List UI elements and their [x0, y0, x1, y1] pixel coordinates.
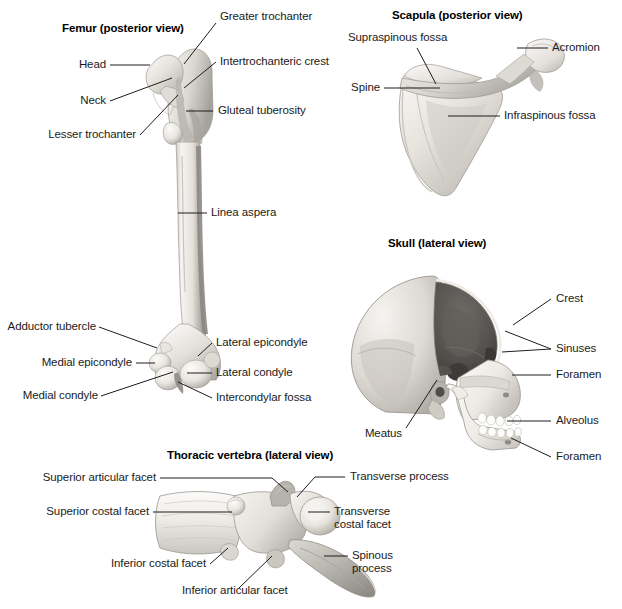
- leader-neck: [110, 78, 172, 101]
- label-inferior-costal-facet: Inferior costal facet: [58, 557, 206, 570]
- label-transverse-costal-facet-line2: costal facet: [334, 518, 391, 531]
- label-linea-aspera: Linea aspera: [211, 206, 276, 219]
- scapula-title: Scapula (posterior view): [392, 9, 523, 22]
- leader-intertrochanteric-crest: [184, 62, 216, 88]
- label-spinous-process-line2: process: [352, 562, 392, 575]
- label-meatus: Meatus: [352, 427, 402, 440]
- leader-transverse-process-2: [297, 477, 315, 497]
- label-transverse-costal-facet-line1: Transverse: [334, 505, 390, 518]
- skull-title: Skull (lateral view): [388, 237, 486, 250]
- vertebra-title: Thoracic vertebra (lateral view): [167, 449, 333, 462]
- leader-sinuses-2: [502, 349, 551, 352]
- label-medial-epicondyle: Medial epicondyle: [0, 356, 132, 369]
- leader-foramen-lower: [511, 438, 551, 457]
- label-infraspinous-fossa: Infraspinous fossa: [504, 109, 596, 122]
- label-transverse-process: Transverse process: [350, 470, 449, 483]
- leader-adductor-tubercle: [99, 327, 157, 348]
- label-lateral-condyle: Lateral condyle: [216, 366, 293, 379]
- label-alveolus: Alveolus: [556, 414, 599, 427]
- leader-supraspinous-fossa: [417, 48, 436, 84]
- anatomy-plate: Femur (posterior view) Greater trochante…: [0, 0, 622, 609]
- label-spine: Spine: [330, 81, 380, 94]
- label-sinuses: Sinuses: [556, 342, 596, 355]
- label-gluteal-tuberosity: Gluteal tuberosity: [218, 104, 306, 117]
- label-adductor-tubercle: Adductor tubercle: [0, 320, 96, 333]
- leader-lesser-trochanter: [140, 95, 178, 135]
- label-intertrochanteric-crest: Intertrochanteric crest: [220, 55, 329, 68]
- leader-medial-condyle: [101, 372, 173, 396]
- label-lesser-trochanter: Lesser trochanter: [0, 128, 136, 141]
- femur-title: Femur (posterior view): [62, 22, 184, 35]
- label-superior-costal-facet: Superior costal facet: [10, 505, 149, 518]
- leader-crest: [513, 299, 551, 325]
- label-superior-articular-facet: Superior articular facet: [10, 471, 156, 484]
- label-head: Head: [0, 58, 106, 71]
- label-crest: Crest: [556, 292, 583, 305]
- label-foramen-lower: Foramen: [556, 450, 601, 463]
- label-inferior-articular-facet: Inferior articular facet: [182, 584, 288, 597]
- leader-superior-articular-facet-2: [272, 478, 288, 492]
- leader-sinuses: [505, 331, 551, 349]
- label-supraspinous-fossa: Supraspinous fossa: [348, 31, 447, 44]
- label-spinous-process-line1: Spinous: [352, 549, 393, 562]
- label-acromion: Acromion: [552, 41, 600, 54]
- leader-inferior-costal-facet: [210, 548, 228, 564]
- label-lateral-epicondyle: Lateral epicondyle: [216, 336, 308, 349]
- label-intercondylar-fossa: Intercondylar fossa: [216, 391, 311, 404]
- label-neck: Neck: [0, 94, 106, 107]
- leader-meatus: [406, 380, 437, 428]
- leader-greater-trochanter: [184, 23, 216, 64]
- leader-intercondylar-fossa: [178, 382, 212, 398]
- label-greater-trochanter: Greater trochanter: [220, 10, 312, 23]
- label-medial-condyle: Medial condyle: [0, 389, 98, 402]
- label-foramen-upper: Foramen: [556, 368, 601, 381]
- leader-lateral-epicondyle: [198, 343, 212, 356]
